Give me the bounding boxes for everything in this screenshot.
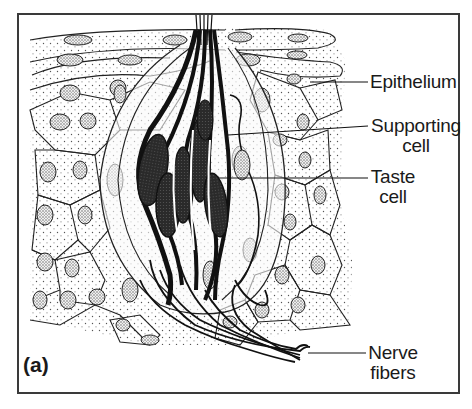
panel-label: (a) [23, 353, 49, 377]
taste-bud-figure: Epithelium Supporting cell Taste cell Ne… [0, 0, 472, 409]
label-supporting-cell: Supporting cell [370, 116, 462, 156]
label-epithelium-text: Epithelium [370, 71, 457, 92]
label-nerve-fibers: Nerve fibers [368, 343, 418, 383]
label-taste-cell-line2: cell [370, 187, 416, 207]
label-taste-cell-line1: Taste [370, 167, 416, 187]
label-taste-cell: Taste cell [370, 167, 416, 207]
label-epithelium: Epithelium [370, 72, 457, 92]
label-supporting-cell-line2: cell [370, 136, 462, 156]
label-nerve-fibers-line2: fibers [368, 363, 418, 383]
label-supporting-cell-line1: Supporting [370, 116, 462, 136]
label-nerve-fibers-line1: Nerve [368, 343, 418, 363]
